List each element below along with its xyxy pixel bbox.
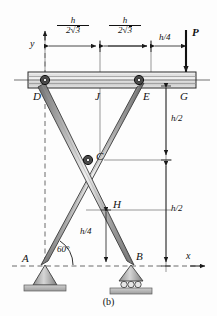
top-dimension-line — [49, 41, 186, 52]
support-roller-B — [110, 265, 152, 294]
load-label-P: P — [192, 26, 199, 38]
axis-label-x: x — [186, 250, 190, 261]
node-label-C: C — [96, 150, 103, 162]
node-label-G: G — [180, 90, 188, 102]
node-label-D: D — [33, 90, 41, 102]
dimension-right-lower: h/2 — [171, 203, 183, 213]
pin-joint-E — [134, 75, 143, 84]
dimension-top-mid-numerator: h — [108, 16, 142, 25]
dimension-top-mid: h 2√3 — [108, 16, 142, 36]
dimension-inner-h4: h/4 — [80, 226, 92, 236]
member-B-D — [38, 83, 134, 265]
node-label-A: A — [22, 252, 29, 264]
node-label-J: J — [95, 90, 100, 102]
support-pin-A — [24, 265, 66, 291]
pin-joint-D — [40, 75, 49, 84]
node-label-E: E — [143, 90, 150, 102]
pin-joint-C — [83, 155, 92, 164]
dimension-right-upper: h/2 — [171, 113, 183, 123]
figure-container: h 2√3 h 2√3 h/4 P y x D J E G C H A B h/… — [0, 0, 217, 316]
axis-label-y: y — [30, 38, 34, 49]
dimension-top-mid-denominator: 2√3 — [108, 26, 142, 35]
node-label-B: B — [136, 250, 143, 262]
figure-caption: (b) — [0, 296, 217, 307]
dimension-top-right: h/4 — [159, 32, 171, 42]
dimension-top-left-denominator: 2√3 — [56, 26, 90, 35]
node-label-H: H — [113, 198, 121, 210]
dimension-top-left: h 2√3 — [56, 16, 90, 36]
right-dimension-chain — [161, 86, 171, 266]
dimension-top-left-numerator: h — [56, 16, 90, 25]
angle-label-60: 60° — [57, 244, 70, 254]
